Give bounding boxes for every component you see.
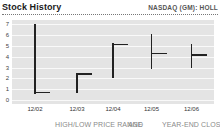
close-tick-12/06 bbox=[192, 54, 207, 56]
ticker-label: NASDAQ (GM): HOLL bbox=[148, 4, 218, 11]
stock-history-widget: { "header": { "title": "Stock History", … bbox=[0, 0, 220, 127]
chart-header: Stock History NASDAQ (GM): HOLL bbox=[2, 2, 218, 15]
hl-bar-12/04 bbox=[112, 43, 114, 78]
close-tick-12/02 bbox=[35, 92, 50, 94]
chart-title: Stock History bbox=[2, 2, 61, 12]
gridline-7 bbox=[12, 24, 214, 25]
x-tick-label-12/04: 12/04 bbox=[98, 106, 128, 113]
clipped-caption-fragment-2: YEAR-END CLOSE ($) bbox=[162, 121, 220, 127]
hl-bar-12/05 bbox=[151, 34, 153, 69]
gridline-6 bbox=[12, 35, 214, 36]
y-tick-label-7: 7 bbox=[0, 21, 9, 27]
y-tick-label-2: 2 bbox=[0, 75, 9, 81]
x-tick-label-12/03: 12/03 bbox=[62, 106, 92, 113]
y-tick-label-0: 0 bbox=[0, 97, 9, 103]
y-tick-label-3: 3 bbox=[0, 65, 9, 71]
x-tick-label-12/05: 12/05 bbox=[137, 106, 167, 113]
close-tick-12/04 bbox=[113, 44, 128, 46]
gridline-0 bbox=[12, 100, 214, 101]
hl-bar-12/03 bbox=[76, 73, 78, 93]
hl-bar-12/02 bbox=[34, 24, 36, 94]
clipped-caption-fragment-1: AND bbox=[128, 121, 143, 127]
y-tick-label-4: 4 bbox=[0, 54, 9, 60]
y-tick-label-6: 6 bbox=[0, 32, 9, 38]
y-tick-label-5: 5 bbox=[0, 43, 9, 49]
plot-area bbox=[12, 20, 214, 104]
y-tick-label-1: 1 bbox=[0, 86, 9, 92]
x-tick-label-12/02: 12/02 bbox=[20, 106, 50, 113]
gridline-1 bbox=[12, 89, 214, 90]
close-tick-12/03 bbox=[77, 73, 92, 75]
close-tick-12/05 bbox=[152, 53, 167, 55]
x-tick-label-12/06: 12/06 bbox=[177, 106, 207, 113]
gridline-2 bbox=[12, 78, 214, 79]
